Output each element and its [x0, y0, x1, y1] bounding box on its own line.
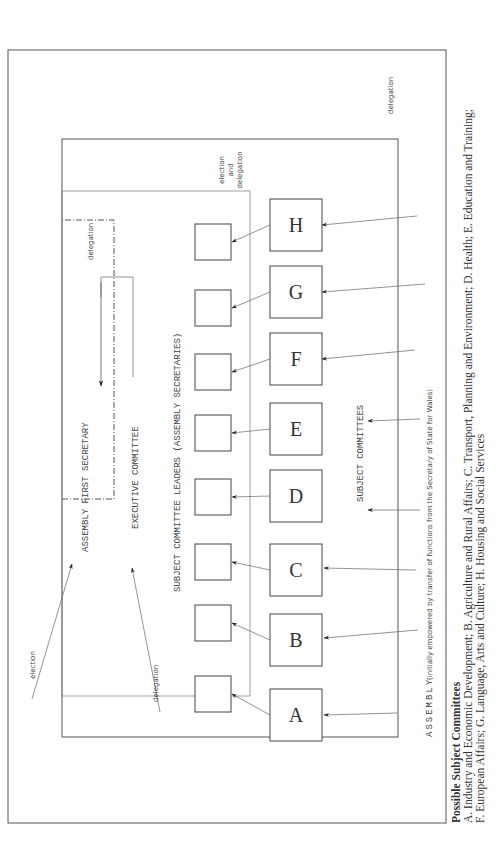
first-secretary-label: ASSEMBLY FIRST SECRETARY: [81, 422, 91, 552]
leader-box-a: [195, 676, 231, 712]
committee-label-b: B: [289, 629, 302, 651]
assembly-arrow: [324, 630, 418, 638]
committee-label-e: E: [290, 418, 302, 440]
committee-label-g: G: [289, 281, 303, 303]
election-and-delegation-label: and: [227, 163, 235, 176]
leader-box-h: [195, 224, 231, 260]
committee-label-c: C: [289, 559, 302, 581]
leaders-label: SUBJECT COMMITTEE LEADERS (ASSEMBLY SECR…: [173, 333, 183, 592]
caption: Possible Subject Committees A. Industry …: [450, 23, 486, 823]
committee-label-f: F: [290, 348, 301, 370]
leader-arrow-h: [232, 225, 270, 242]
election-and-delegation-label: election: [218, 156, 226, 184]
leader-arrow-c: [232, 562, 270, 570]
leader-box-d: [195, 479, 231, 515]
leader-arrow-a: [232, 694, 270, 715]
delegation-label-exec: delegation: [87, 223, 95, 260]
caption-title: Possible Subject Committees: [450, 23, 462, 823]
election-label: election: [29, 651, 37, 679]
assembly-arrow: [324, 713, 397, 715]
delegation-label-bottom: delegation: [152, 665, 160, 702]
leader-arrow-b: [232, 623, 270, 640]
committee-label-d: D: [289, 485, 303, 507]
rotated-page: ABCDEFGH ASSEMBLY FIRST SECRETARYEXECUTI…: [0, 0, 496, 852]
caption-line-1: A. Industry and Economic Development; B.…: [462, 23, 474, 823]
committee-label-h: H: [289, 214, 303, 236]
leader-box-c: [195, 544, 231, 580]
election-arrow: [32, 564, 72, 699]
assembly-arrow: [324, 568, 416, 570]
election-and-delegation-label: delegation: [236, 151, 244, 188]
delegation-label-top: delegation: [387, 77, 395, 114]
committee-label-a: A: [289, 704, 304, 726]
assembly-label: ASSEMBLY: [425, 678, 435, 737]
leader-arrow-d: [232, 496, 270, 497]
assembly-arrow: [322, 216, 417, 225]
leader-box-b: [195, 605, 231, 641]
leader-box-g: [195, 290, 231, 326]
assembly-note: (initially empowered by transfer of func…: [426, 389, 434, 680]
executive-bracket: [101, 277, 133, 377]
subject-committees-label: SUBJECT COMMITTEES: [356, 405, 366, 502]
assembly-arrow: [368, 419, 420, 421]
executive-committee-label: EXECUTIVE COMMITTEE: [131, 426, 141, 529]
leader-arrow-f: [232, 359, 270, 372]
leader-box-f: [195, 354, 231, 390]
leader-arrow-e: [232, 429, 270, 433]
assembly-arrow: [322, 350, 415, 359]
assembly-arrow: [322, 284, 425, 292]
caption-line-2: F. European Affairs; G. Language, Arts a…: [474, 23, 486, 823]
governance-diagram: ABCDEFGH ASSEMBLY FIRST SECRETARYEXECUTI…: [0, 0, 496, 852]
leader-arrow-g: [232, 292, 270, 308]
leader-box-e: [195, 415, 231, 451]
